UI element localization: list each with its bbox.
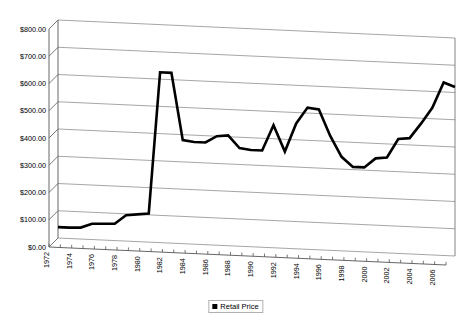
x-axis-tick-label: 1992 xyxy=(269,262,278,278)
x-axis-tick-label: 1990 xyxy=(246,261,255,277)
gridline xyxy=(58,102,455,120)
y-axis-tick-label: $400.00 xyxy=(20,134,46,143)
y-tick-connector xyxy=(49,184,58,193)
y-axis-tick-label: $500.00 xyxy=(20,106,46,115)
y-tick-connector xyxy=(49,20,58,29)
x-axis-tick-label: 2006 xyxy=(428,269,437,285)
y-axis-tick-label: $600.00 xyxy=(20,79,46,88)
y-tick-connector xyxy=(49,211,58,220)
series-line-retail-price xyxy=(58,72,455,227)
x-axis-tick-label: 1978 xyxy=(110,255,119,271)
legend-swatch-retail-price xyxy=(212,304,217,309)
x-axis-tick-label: 1972 xyxy=(42,252,51,268)
gridline xyxy=(58,184,455,202)
x-axis-tick-label: 1996 xyxy=(314,264,323,280)
data-series-retail-price xyxy=(58,72,455,227)
gridline xyxy=(58,156,455,174)
chart-legend: Retail Price xyxy=(208,300,263,313)
y-tick-connector xyxy=(49,156,58,165)
gridline xyxy=(58,211,455,229)
y-axis-labels: $0.00$100.00$200.00$300.00$400.00$500.00… xyxy=(20,25,46,252)
x-axis-tick-label: 1982 xyxy=(155,257,164,273)
gridline xyxy=(58,47,455,65)
y-axis-tick-label: $300.00 xyxy=(20,161,46,170)
y-axis-tick-label: $700.00 xyxy=(20,52,46,61)
y-axis-tick-label: $200.00 xyxy=(20,188,46,197)
y-tick-connector xyxy=(49,75,58,84)
x-axis-tick-label: 2000 xyxy=(360,266,369,282)
chart-container: $0.00$100.00$200.00$300.00$400.00$500.00… xyxy=(0,0,472,333)
x-axis-tick-label: 1974 xyxy=(65,253,74,269)
y-axis-tick-label: $100.00 xyxy=(20,215,46,224)
x-axis-labels: 1972197419761978198019821984198619881990… xyxy=(42,252,437,285)
y-tick-connector xyxy=(49,47,58,56)
y-tick-connector xyxy=(49,129,58,138)
x-axis-tick-label: 1980 xyxy=(133,256,142,272)
x-axis-tick-label: 1984 xyxy=(178,258,187,274)
y-axis-tick-label: $800.00 xyxy=(20,25,46,34)
x-axis-tick-label: 2002 xyxy=(382,267,391,283)
x-axis-tick-label: 2004 xyxy=(405,268,414,284)
y-axis-tick-label: $0.00 xyxy=(28,243,46,252)
plot-walls xyxy=(49,20,455,265)
y-axis-ticks xyxy=(49,20,58,247)
y-tick-connector xyxy=(49,238,58,247)
gridline xyxy=(58,20,455,38)
y-tick-connector xyxy=(49,102,58,111)
gridline xyxy=(58,238,455,256)
chart-plot-area: $0.00$100.00$200.00$300.00$400.00$500.00… xyxy=(0,0,472,333)
x-axis-tick-label: 1988 xyxy=(223,260,232,276)
legend-label-retail-price: Retail Price xyxy=(220,302,258,311)
x-axis-tick-label: 1994 xyxy=(292,263,301,279)
x-axis-tick-label: 1976 xyxy=(87,254,96,270)
x-axis-tick-label: 1986 xyxy=(201,259,210,275)
gridline xyxy=(58,75,455,93)
x-axis-tick-label: 1998 xyxy=(337,265,346,281)
